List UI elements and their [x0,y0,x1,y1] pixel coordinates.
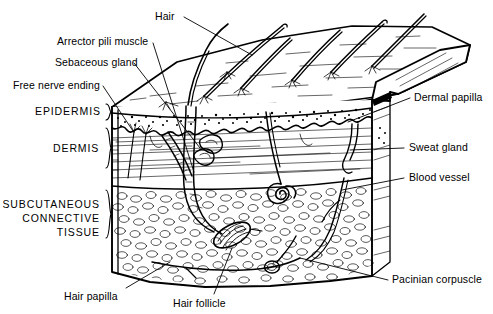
label-hair-follicle: Hair follicle [173,297,226,309]
leader-hair [184,17,252,55]
brace-epidermis [106,104,111,120]
label-dermis: DERMIS [53,142,99,154]
label-hair-papilla: Hair papilla [64,290,118,302]
label-subcutaneous-line-1: SUBCUTANEOUS [2,198,100,210]
label-subcutaneous-line-2: CONNECTIVE [22,212,100,224]
label-sweat-gland: Sweat gland [409,141,468,153]
brace-subcutaneous [106,190,111,238]
skin-cross-section-figure: Hair Arrector pili muscle Sebaceous glan… [0,0,493,314]
label-arrector-pili-muscle: Arrector pili muscle [57,35,148,47]
label-pacinian-corpuscle: Pacinian corpuscle [392,273,482,285]
brace-dermis [106,128,111,168]
label-hair: Hair [155,10,175,22]
label-subcutaneous-connective-tissue: SUBCUTANEOUS CONNECTIVE TISSUE [2,198,100,240]
label-subcutaneous-line-3: TISSUE [57,226,100,238]
label-epidermis: EPIDERMIS [35,105,101,117]
label-sebaceous-gland: Sebaceous gland [55,56,138,68]
label-dermal-papilla: Dermal papilla [414,91,483,103]
label-free-nerve-ending: Free nerve ending [13,79,100,91]
layer-braces [106,104,111,238]
label-blood-vessel: Blood vessel [409,171,470,183]
